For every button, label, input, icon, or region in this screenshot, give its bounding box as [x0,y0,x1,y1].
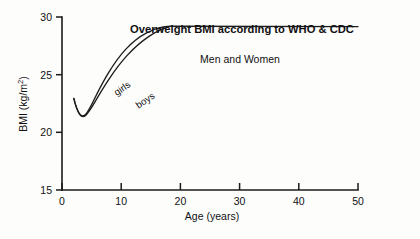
y-axis: 30 25 20 15 BMI (kg/m2) [16,11,62,196]
x-tick-label-0: 0 [59,195,65,207]
girls-curve-line [74,26,172,116]
x-tick-label-10: 10 [115,195,127,207]
y-tick-label-30: 30 [40,11,52,23]
boys-curve-label: boys [134,90,157,111]
chart-title: Overweight BMI according to WHO & CDC [130,23,354,35]
girls-curve-label: girls [112,79,133,98]
x-tick-label-40: 40 [293,195,305,207]
y-axis-title: BMI (kg/m2) [16,76,29,132]
data-curves [74,26,358,117]
chart-page: 30 25 20 15 BMI (kg/m2) 0 10 20 30 40 50… [0,0,420,239]
x-axis-title: Age (years) [185,210,239,222]
men-and-women-label: Men and Women [200,53,280,65]
x-tick-label-50: 50 [352,195,364,207]
x-tick-label-20: 20 [175,195,187,207]
x-tick-label-30: 30 [234,195,246,207]
y-tick-label-20: 20 [40,126,52,138]
boys-curve-line [74,26,172,116]
y-tick-label-15: 15 [40,184,52,196]
x-axis: 0 10 20 30 40 50 Age (years) [59,183,364,222]
bmi-line-chart: 30 25 20 15 BMI (kg/m2) 0 10 20 30 40 50… [0,0,420,239]
y-tick-label-25: 25 [40,69,52,81]
annotations: Overweight BMI according to WHO & CDC Me… [112,23,354,110]
